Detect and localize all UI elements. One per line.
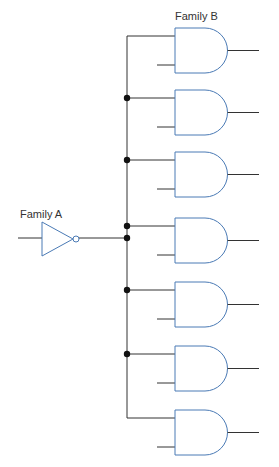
and-gate-6: [127, 346, 259, 391]
junction-dot: [124, 223, 130, 229]
junction-dot: [124, 157, 130, 163]
and-gate-5: [127, 282, 259, 327]
and-gate-body: [175, 152, 228, 197]
circuit-diagram: [0, 0, 279, 467]
and-gate-body: [175, 346, 228, 391]
inverter-bubble-icon: [73, 236, 79, 242]
junction-dot: [124, 95, 130, 101]
and-gate-3: [127, 152, 259, 197]
and-gate-2: [127, 90, 259, 135]
and-gate-7: [127, 410, 259, 455]
junction-dot: [124, 235, 130, 241]
and-gate-1: [127, 28, 259, 73]
and-gate-body: [175, 218, 228, 263]
inverter-gate: [42, 222, 79, 256]
junction-dot: [124, 287, 130, 293]
junction-dot: [124, 351, 130, 357]
and-gate-body: [175, 410, 228, 455]
and-gate-body: [175, 282, 228, 327]
and-gate-4: [127, 218, 259, 263]
and-gate-body: [175, 90, 228, 135]
and-gate-body: [175, 28, 228, 73]
